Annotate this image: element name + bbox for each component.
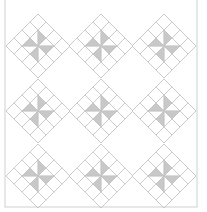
shaded-triangle [38,95,46,111]
shaded-triangle [30,46,38,62]
shaded-triangle [22,38,38,46]
shaded-triangle [93,111,101,127]
shaded-triangle [156,111,164,127]
quilt-block [69,144,133,208]
quilt-block [6,79,70,143]
shaded-triangle [164,111,180,119]
shaded-triangle [148,168,164,176]
shaded-triangle [22,168,38,176]
shaded-triangle [38,160,46,176]
quilt-block [69,79,133,143]
shaded-triangle [22,103,38,111]
quilt-diagram [0,0,207,212]
shaded-triangle [164,46,180,54]
shaded-triangle [38,30,46,46]
shaded-triangle [164,176,180,184]
shaded-triangle [156,176,164,192]
shaded-triangle [101,46,117,54]
quilt-block [132,14,196,78]
shaded-triangle [85,168,101,176]
shaded-triangle [156,46,164,62]
shaded-triangle [148,38,164,46]
shaded-triangle [85,103,101,111]
shaded-triangle [30,176,38,192]
shaded-triangle [101,30,109,46]
shaded-triangle [101,160,109,176]
shaded-triangle [93,46,101,62]
quilt-block [132,79,196,143]
shaded-triangle [93,176,101,192]
shaded-triangle [85,38,101,46]
quilt-block [132,144,196,208]
quilt-block [6,14,70,78]
shaded-triangle [38,111,54,119]
quilt-block [6,144,70,208]
shaded-triangle [101,111,117,119]
shaded-triangle [30,111,38,127]
shaded-triangle [164,160,172,176]
shaded-triangle [164,95,172,111]
shaded-triangle [38,176,54,184]
shaded-triangle [164,30,172,46]
shaded-triangle [101,176,117,184]
shaded-triangle [38,46,54,54]
shaded-triangle [101,95,109,111]
quilt-block [69,14,133,78]
shaded-triangle [148,103,164,111]
